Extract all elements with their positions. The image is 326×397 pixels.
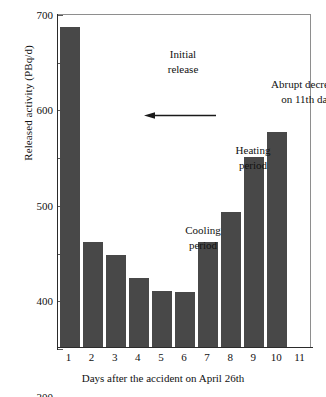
y-tick-label-700: 700 [37, 10, 54, 21]
bar-slot-day-8[interactable] [220, 15, 243, 347]
annotation-heating-period-line2: period [224, 158, 282, 173]
bar-slot-day-11[interactable] [289, 15, 312, 347]
bar-slot-day-1[interactable] [58, 15, 81, 347]
y-tick-label-400: 400 [37, 296, 54, 307]
bar-day-3[interactable] [106, 255, 126, 347]
bar-slot-day-2[interactable] [81, 15, 104, 347]
bar-day-6[interactable] [175, 292, 195, 347]
x-tick-label-2: 2 [80, 352, 103, 363]
annotation-cooling-period: Cooling period [174, 223, 232, 253]
x-tick-label-11: 11 [288, 352, 311, 363]
y-axis-title: Released activity (PBq/d) [22, 13, 34, 193]
x-tick-label-8: 8 [219, 352, 242, 363]
y-tick-0: 0 [58, 349, 63, 350]
bar-day-7[interactable] [198, 242, 218, 347]
y-tick-label-300: 300 [37, 391, 54, 397]
x-tick-label-7: 7 [196, 352, 219, 363]
bar-slot-day-3[interactable] [104, 15, 127, 347]
annotation-initial-release-line2: release [150, 62, 216, 77]
annotation-heating-period-line1: Heating [224, 143, 282, 158]
bar-day-5[interactable] [152, 291, 172, 347]
x-tick-label-9: 9 [242, 352, 265, 363]
bar-day-1[interactable] [60, 27, 80, 347]
annotation-heating-period: Heating period [224, 143, 282, 173]
annotation-initial-release: Initial release [150, 47, 216, 77]
bar-chart-figure: Released activity (PBq/d) 01002003004005… [0, 0, 326, 397]
plot-area: 0100200300400500600700 Initial release A… [57, 14, 311, 348]
bar-day-4[interactable] [129, 278, 149, 347]
annotation-abrupt-decrease-line1: Abrupt decrease [254, 77, 326, 92]
annotation-cooling-period-line1: Cooling [174, 223, 232, 238]
x-tick-label-3: 3 [103, 352, 126, 363]
arrow-left-icon [144, 111, 216, 120]
bar-slot-day-9[interactable] [243, 15, 266, 347]
y-tick-label-500: 500 [37, 200, 54, 211]
annotation-initial-release-line1: Initial [150, 47, 216, 62]
x-tick-label-5: 5 [149, 352, 172, 363]
x-tick-label-1: 1 [57, 352, 80, 363]
y-tick-label-600: 600 [37, 105, 54, 116]
x-axis-line [57, 347, 313, 348]
x-tick-label-4: 4 [126, 352, 149, 363]
x-tick-label-10: 10 [265, 352, 288, 363]
bar-slot-day-10[interactable] [266, 15, 289, 347]
annotation-abrupt-decrease: Abrupt decrease on 11th day [254, 77, 326, 107]
bar-day-2[interactable] [83, 242, 103, 347]
x-axis-title: Days after the accident on April 26th [0, 372, 326, 384]
annotation-abrupt-decrease-line2: on 11th day [254, 92, 326, 107]
x-tick-label-6: 6 [172, 352, 195, 363]
bar-slot-day-4[interactable] [127, 15, 150, 347]
annotation-cooling-period-line2: period [174, 238, 232, 253]
bar-day-9[interactable] [244, 157, 264, 347]
